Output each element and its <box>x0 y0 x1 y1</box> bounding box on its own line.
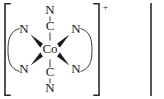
charge-superscript: + <box>103 2 108 12</box>
left-square-bracket <box>5 4 10 95</box>
wedge-bond-lower-right-nitrogen <box>57 52 70 65</box>
atom-label-carbon-axial-top: C <box>46 18 55 33</box>
atom-label-nitrogen-axial-bottom: N <box>45 80 55 95</box>
wedge-bond-upper-right-nitrogen <box>57 35 70 48</box>
atom-label-nitrogen-lower-right: N <box>71 61 81 76</box>
atom-label-nitrogen-axial-top: N <box>45 2 55 17</box>
chelate-arc-left <box>8 29 20 72</box>
coordination-complex-diagram: + N C C N N N N N <box>0 0 164 99</box>
atom-label-carbon-axial-bottom: C <box>46 64 55 79</box>
atom-label-nitrogen-upper-right: N <box>71 21 81 36</box>
atom-label-nitrogen-lower-left: N <box>19 61 29 76</box>
structure-figure-canvas: + N C C N N N N N <box>0 0 164 99</box>
right-square-bracket <box>94 4 99 95</box>
atom-label-cobalt-center: Co <box>42 41 57 56</box>
chelate-arc-right <box>81 29 93 72</box>
atom-label-nitrogen-upper-left: N <box>19 21 29 36</box>
